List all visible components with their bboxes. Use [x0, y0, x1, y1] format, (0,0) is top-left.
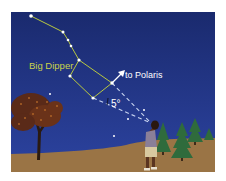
- polaris-diagram: Big Dipper to Polaris 5°: [11, 12, 215, 172]
- star-bowl-top-left: [77, 58, 80, 61]
- star-bowl-bottom-right: [91, 96, 94, 99]
- star-bowl-top-right: [110, 81, 113, 84]
- scene-illustration: [11, 12, 215, 172]
- star-handle-4: [70, 45, 73, 48]
- to-polaris-label: to Polaris: [125, 71, 163, 80]
- star-bowl-bottom-left: [68, 74, 71, 77]
- big-dipper-label: Big Dipper: [29, 61, 73, 71]
- star-handle-end: [29, 14, 33, 18]
- star-handle-2: [62, 31, 65, 34]
- angle-label: 5°: [111, 99, 121, 109]
- star-handle-3: [67, 39, 70, 42]
